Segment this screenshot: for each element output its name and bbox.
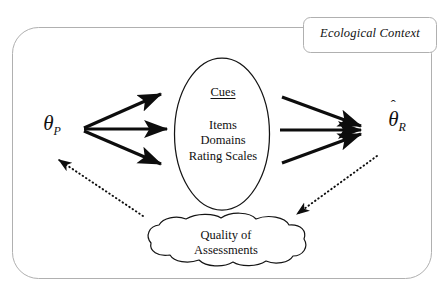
quality-cloud-line: Quality of xyxy=(160,228,292,243)
cues-item-list: Items Domains Rating Scales xyxy=(172,118,274,164)
cues-item: Domains xyxy=(172,133,274,148)
person-theta-subscript: P xyxy=(53,124,60,138)
dotted-arrow-rater-to-cloud xyxy=(297,156,377,214)
quality-cloud-label: Quality of Assessments xyxy=(160,228,292,258)
rater-theta-symbol-wrap: ˆθ xyxy=(388,108,398,132)
person-theta-symbol: θ xyxy=(43,111,53,135)
ecological-context-label: Ecological Context xyxy=(303,26,437,40)
arrow-person-to-cues-lower xyxy=(84,131,161,164)
arrow-cues-to-rater-upper xyxy=(282,97,361,126)
rater-theta-hat-accent: ˆ xyxy=(391,97,396,114)
cues-heading: Cues xyxy=(178,85,268,99)
arrows-cues-to-rater xyxy=(280,97,361,163)
rater-theta-label: ˆθR xyxy=(366,108,428,135)
arrows-person-to-cues xyxy=(84,94,167,164)
cues-item: Rating Scales xyxy=(172,149,274,164)
cues-item: Items xyxy=(172,118,274,133)
quality-cloud-line: Assessments xyxy=(160,243,292,258)
person-theta-label: θP xyxy=(22,112,82,139)
arrow-person-to-cues-upper xyxy=(84,94,161,128)
dotted-arrow-cloud-to-person xyxy=(59,160,143,216)
ecological-model-diagram: Ecological Context θP ˆθR Cues Items Dom… xyxy=(0,0,445,292)
arrow-cues-to-rater-lower xyxy=(282,134,361,163)
rater-theta-subscript: R xyxy=(398,120,405,134)
